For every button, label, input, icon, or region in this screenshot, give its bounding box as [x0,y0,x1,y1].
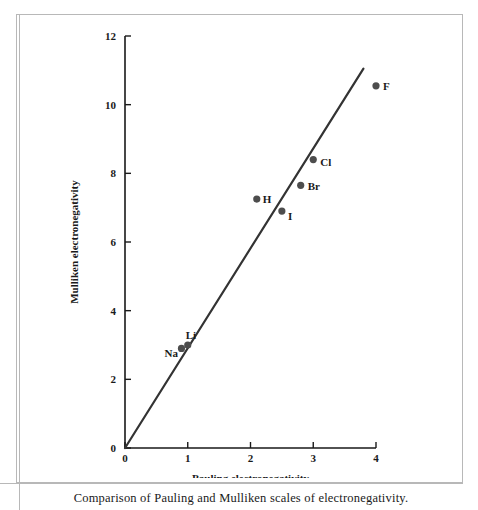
y-tick-label: 2 [111,373,117,385]
scatter-chart: 01234024681012 NaLiIHBrClF Pauling elect… [0,0,478,478]
data-point-label-H: H [263,193,272,205]
data-point-Na [178,345,185,352]
x-tick-label: 3 [311,452,317,464]
figure-caption: Comparison of Pauling and Mulliken scale… [19,486,463,510]
data-point-label-Cl: Cl [320,156,331,168]
trend-line-segment [125,69,363,448]
data-point-label-Li: Li [186,329,196,341]
data-point-H [253,195,260,202]
y-axis-title: Mulliken electronegativity [68,180,80,304]
chart-plot-area: 01234024681012 NaLiIHBrClF Pauling elect… [0,0,478,478]
y-tick-label: 0 [111,442,117,454]
x-tick-label: 0 [122,452,128,464]
trend-line [125,69,363,448]
y-tick-label: 8 [111,167,117,179]
y-tick-label: 4 [111,305,117,317]
data-point-F [372,82,379,89]
data-point-label-I: I [288,210,292,222]
data-point-label-Na: Na [164,347,178,359]
data-point-label-Br: Br [308,180,320,192]
caption-divider [0,483,463,484]
x-tick-label: 2 [248,452,254,464]
y-tick-label: 6 [111,236,117,248]
data-point-I [278,208,285,215]
y-tick-label: 10 [105,99,117,111]
data-point-label-F: F [383,80,390,92]
chart-ticks: 01234024681012 [105,30,379,464]
data-point-Li [184,341,191,348]
data-points: NaLiIHBrClF [164,80,390,360]
y-tick-label: 12 [105,30,117,42]
data-point-Cl [310,156,317,163]
x-tick-label: 4 [373,452,379,464]
x-tick-label: 1 [185,452,191,464]
data-point-Br [297,182,304,189]
x-axis-title: Pauling electronegativity [192,472,309,478]
